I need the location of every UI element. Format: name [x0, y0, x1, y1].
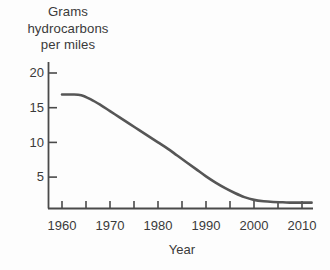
x-tick-label-1960: 1960: [38, 219, 86, 232]
x-tick-label-2010: 2010: [278, 219, 326, 232]
y-tick-label-20: 20: [14, 66, 44, 79]
x-tick-label-1970: 1970: [86, 219, 134, 232]
x-axis-title: Year: [158, 243, 206, 256]
y-tick-label-15: 15: [14, 101, 44, 114]
x-tick-label-1990: 1990: [182, 219, 230, 232]
y-tick-label-5: 5: [14, 170, 44, 183]
x-tick-label-1980: 1980: [134, 219, 182, 232]
y-tick-label-10: 10: [14, 136, 44, 149]
data-series-line: [62, 94, 312, 202]
chart-screenshot: Grams hydrocarbons per miles: [0, 0, 330, 270]
y-axis-ticks: [49, 73, 57, 177]
x-tick-label-2000: 2000: [230, 219, 278, 232]
